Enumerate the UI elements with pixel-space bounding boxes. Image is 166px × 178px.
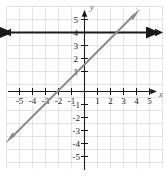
y-tick-label: -5 <box>73 152 81 162</box>
plot-area: -5 -4 -3 -2 -1 1 2 3 4 5 5 4 3 2 1 -1 -2… <box>0 0 166 178</box>
x-tick-label: 3 <box>121 96 126 106</box>
y-tick-label: -1 <box>73 100 81 110</box>
y-tick-label: -3 <box>73 126 81 136</box>
y-tick-label: -2 <box>73 113 81 123</box>
x-axis-label: x <box>158 90 163 99</box>
y-tick-label: 2 <box>74 54 79 64</box>
x-tick-label: 4 <box>134 96 139 106</box>
y-tick-label: -4 <box>73 139 81 149</box>
y-tick-label: 3 <box>74 41 79 51</box>
x-tick-label: -5 <box>16 96 24 106</box>
coordinate-graph: -5 -4 -3 -2 -1 1 2 3 4 5 5 4 3 2 1 -1 -2… <box>0 0 166 178</box>
y-axis-label: y <box>89 3 94 12</box>
x-tick-label: -2 <box>55 96 63 106</box>
x-tick-label: 5 <box>147 96 152 106</box>
x-tick-label: 2 <box>108 96 113 106</box>
x-tick-label: -4 <box>29 96 37 106</box>
x-tick-label: 1 <box>95 96 100 106</box>
y-tick-label: 5 <box>74 15 79 25</box>
